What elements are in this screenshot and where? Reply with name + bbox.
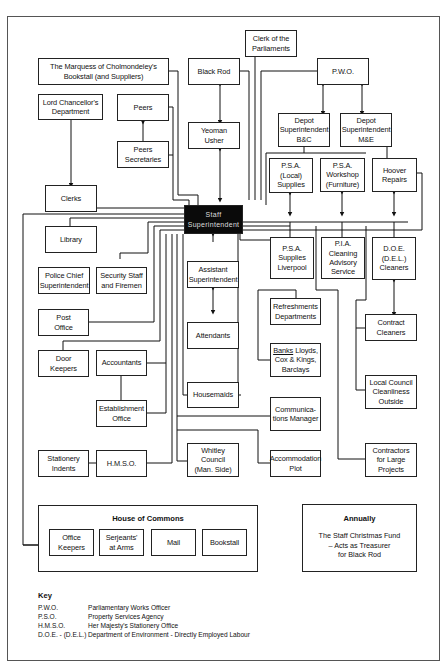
node-banks: Banks Lloyds, Cox & Kings, Barclays bbox=[270, 343, 321, 377]
node-peers: Peers bbox=[117, 94, 169, 121]
node-doe-del-cleaners: D.O.E. (D.E.L.) Cleaners bbox=[372, 237, 416, 280]
key-def: Department of Environment - Directly Emp… bbox=[88, 631, 250, 638]
node-contract-cleaners: Contract Cleaners bbox=[365, 314, 417, 341]
node-establishment-office: Establishment Office bbox=[96, 400, 147, 427]
node-staff-superintendent: Staff Superintendent bbox=[184, 205, 243, 234]
node-housemaids: Housemaids bbox=[187, 382, 239, 408]
house-of-commons-title: House of Commons bbox=[39, 514, 257, 523]
node-local-council-cleanliness: Local Council Cleanliness Outside bbox=[365, 375, 417, 409]
hoc-serjeants-at-arms: Serjeants' at Arms bbox=[99, 529, 144, 556]
node-hoover-repairs: Hoover Repairs bbox=[372, 158, 417, 192]
key-abbr: H.M.S.O. bbox=[38, 622, 88, 629]
key-def: Property Services Agency bbox=[88, 613, 164, 620]
annually-title: Annually bbox=[303, 514, 416, 523]
node-clerk-of-parliaments: Clerk of the Parliaments bbox=[245, 30, 297, 57]
node-lord-chancellors-department: Lord Chancellor's Department bbox=[38, 94, 103, 120]
hoc-mail: Mail bbox=[151, 529, 196, 556]
key-def: Her Majesty's Stationery Office bbox=[88, 622, 178, 629]
node-black-rod: Black Rod bbox=[188, 58, 240, 85]
node-psa-workshop: P.S.A. Workshop (Furniture) bbox=[320, 158, 365, 192]
node-yeoman-usher: Yeoman Usher bbox=[188, 122, 240, 149]
node-refreshments-departments: Refreshments Departments bbox=[270, 298, 321, 325]
node-marquess-bookstall: The Marquess of Cholmondeley's Bookstall… bbox=[38, 58, 169, 85]
node-clerks: Clerks bbox=[45, 185, 97, 212]
node-door-keepers: Door Keepers bbox=[38, 350, 89, 377]
key-title: Key bbox=[38, 591, 52, 600]
node-contractors-large-projects: Contractors for Large Projects bbox=[365, 443, 417, 477]
node-pwo: P.W.O. bbox=[317, 58, 369, 85]
node-post-office: Post Office bbox=[38, 309, 89, 336]
node-police-chief-superintendent: Police Chief Superintendent bbox=[38, 267, 90, 294]
node-psa-supplies-liverpool: P.S.A. Supplies Liverpool bbox=[270, 237, 314, 279]
hoc-bookstall: Bookstall bbox=[202, 529, 247, 556]
key-def: Parliamentary Works Officer bbox=[88, 604, 170, 611]
node-assistant-superintendent: Assistant Superintendent bbox=[187, 261, 239, 288]
node-whitley-council: Whitley Council (Man. Side) bbox=[187, 443, 239, 477]
node-hmso: H.M.S.O. bbox=[96, 450, 147, 477]
node-peers-secretaries: Peers Secretaries bbox=[117, 141, 169, 168]
annually-box: Annually The Staff Christmas Fund – Acts… bbox=[302, 504, 417, 572]
key-abbr: P.S.O. bbox=[38, 613, 88, 620]
key-abbr: D.O.E. - (D.E.L.) bbox=[38, 631, 88, 638]
node-communications-manager: Communica- tions Manager bbox=[270, 397, 321, 431]
key-abbr: P.W.O. bbox=[38, 604, 88, 611]
node-library: Library bbox=[45, 226, 97, 253]
node-attendants: Attendants bbox=[187, 322, 239, 349]
hoc-office-keepers: Office Keepers bbox=[49, 529, 94, 556]
node-accommodation-plot: Accommodation Plot bbox=[270, 450, 321, 477]
node-psa-local-supplies: P.S.A. (Local) Supplies bbox=[269, 158, 313, 193]
node-stationery-indents: Stationery Indents bbox=[38, 450, 89, 477]
node-depot-superintendent-me: Depot Superintendent M&E bbox=[340, 113, 392, 147]
annually-text: The Staff Christmas Fund – Acts as Treas… bbox=[303, 531, 416, 560]
banks-label: Banks bbox=[273, 346, 293, 355]
node-accountants: Accountants bbox=[96, 350, 147, 376]
node-pia-cleaning-advisory: P.I.A. Cleaning Advisory Service bbox=[321, 237, 365, 279]
node-security-staff-firemen: Security Staff and Firemen bbox=[96, 267, 147, 294]
node-depot-superintendent-bc: Depot Superintendent B&C bbox=[278, 113, 330, 147]
